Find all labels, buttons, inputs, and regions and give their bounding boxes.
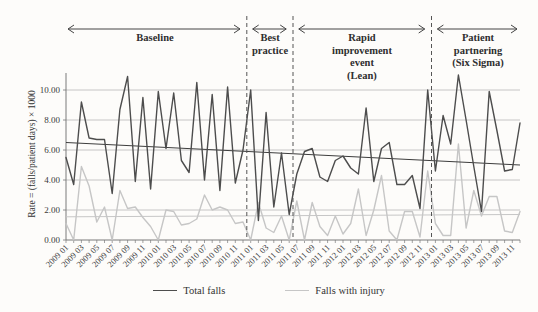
phase-label-best-practice: Best practice: [252, 32, 288, 57]
legend-item-total-falls: Total falls: [153, 285, 225, 296]
y-tick-label: 8.00: [44, 115, 60, 125]
y-axis-title: Rate = (falls/patient days) × 1000: [27, 74, 37, 234]
phase-label-lean: Rapid improvement event (Lean): [332, 32, 392, 82]
legend-label-total-falls: Total falls: [183, 285, 225, 296]
phase-label-baseline: Baseline: [136, 32, 173, 45]
falls-rate-chart: 0.002.004.006.008.0010.002009 012009 032…: [0, 0, 538, 312]
y-tick-label: 2.00: [44, 205, 60, 215]
falls-with-injury-line-swatch: [285, 290, 309, 291]
y-tick-label: 0.00: [44, 235, 60, 245]
legend: Total falls Falls with injury: [0, 285, 538, 296]
legend-item-falls-with-injury: Falls with injury: [285, 285, 384, 296]
y-tick-label: 6.00: [44, 145, 60, 155]
y-tick-label: 10.00: [40, 85, 61, 95]
legend-label-falls-with-injury: Falls with injury: [315, 285, 384, 296]
total-falls-line-swatch: [153, 290, 177, 291]
phase-label-six-sigma: Patient partnering (Six Sigma): [452, 32, 504, 70]
y-tick-label: 4.00: [44, 175, 60, 185]
